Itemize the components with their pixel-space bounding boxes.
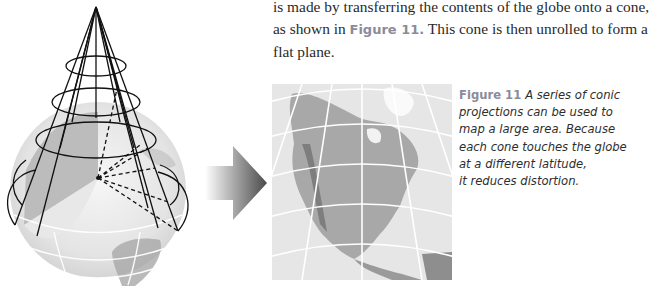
conic-projection-map: [272, 84, 452, 280]
right-arrow-icon: [205, 146, 267, 220]
figure-reference: Figure 11.: [350, 22, 425, 37]
figure-label: Figure 11: [459, 88, 521, 102]
body-paragraph: is made by transferring the contents of …: [273, 0, 639, 63]
figure-caption: Figure 11A series of conic projections c…: [459, 87, 641, 190]
body-line-3: flat plane.: [273, 41, 639, 63]
body-line-1: is made by transferring the contents of …: [273, 0, 639, 18]
cone-globe-illustration: [0, 0, 200, 288]
body-line-2: as shown in Figure 11. This cone is then…: [273, 18, 639, 41]
